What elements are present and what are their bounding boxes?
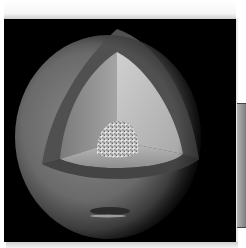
page-bottom-margin (6, 242, 238, 248)
adjacent-panel-edge (237, 103, 246, 228)
page-top-margin (4, 0, 236, 19)
planet-cutaway-illustration (4, 19, 236, 242)
planet-image-frame (4, 19, 236, 242)
